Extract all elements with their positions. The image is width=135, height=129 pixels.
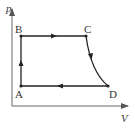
y-axis-label: p [5,2,12,14]
label-c: C [84,23,91,35]
x-axis-label: V [121,112,129,124]
arrow-right-icon [51,34,57,39]
process-c-d [86,36,108,86]
pv-diagram: p V A B C D [0,0,135,129]
arrow-left-icon [57,84,63,89]
arrow-up-icon [19,60,24,66]
label-a: A [15,88,23,100]
label-b: B [15,23,22,35]
label-d: D [109,88,117,100]
